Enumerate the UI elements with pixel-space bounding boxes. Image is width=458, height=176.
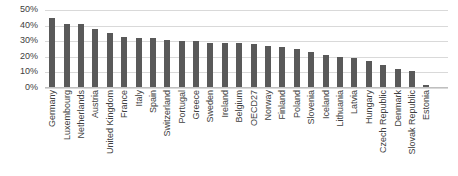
x-label-slot: United Kingdom (103, 90, 117, 176)
bar[interactable] (207, 43, 213, 88)
bar[interactable] (409, 71, 415, 88)
x-axis-tick-label: Finland (278, 90, 287, 120)
x-axis-tick-label: Lithuania (336, 90, 345, 127)
bar-slot (347, 10, 361, 88)
bar-slot (103, 10, 117, 88)
x-axis-tick-label: Iceland (321, 90, 330, 119)
bar[interactable] (380, 65, 386, 88)
x-label-slot: Spain (146, 90, 160, 176)
x-axis-tick-label: Greece (192, 90, 201, 120)
bar-slot (189, 10, 203, 88)
x-axis-tick-label: United Kingdom (105, 90, 114, 154)
x-axis-tick-label: Hungary (364, 90, 373, 124)
bar[interactable] (351, 58, 357, 88)
x-label-slot: Latvia (347, 90, 361, 176)
x-label-slot: Greece (189, 90, 203, 176)
bar[interactable] (64, 24, 70, 88)
x-label-slot: Slovenia (304, 90, 318, 176)
x-label-slot: Germany (45, 90, 59, 176)
y-axis-tick: 10% (0, 66, 38, 76)
bar-slot (117, 10, 131, 88)
x-label-slot: Sweden (203, 90, 217, 176)
x-axis-tick-label: Switzerland (163, 90, 172, 137)
bar[interactable] (251, 44, 257, 88)
bar-slot (88, 10, 102, 88)
x-label-slot: Czech Republic (376, 90, 390, 176)
bar[interactable] (136, 38, 142, 88)
bar[interactable] (366, 61, 372, 88)
bar[interactable] (164, 40, 170, 88)
bar-slot (131, 10, 145, 88)
x-axis-line (45, 87, 448, 88)
gridline (45, 88, 448, 89)
bar-slot (45, 10, 59, 88)
x-label-slot: Belgium (232, 90, 246, 176)
x-axis-tick-label: Belgium (235, 90, 244, 123)
x-axis-tick-label: Germany (48, 90, 57, 127)
x-label-slot: France (117, 90, 131, 176)
x-label-slot: Estonia (419, 90, 433, 176)
plot-area (45, 10, 448, 88)
bar[interactable] (107, 33, 113, 88)
bar[interactable] (279, 47, 285, 88)
bar-slot (304, 10, 318, 88)
bar[interactable] (179, 41, 185, 88)
y-axis-tick: 0% (0, 82, 38, 92)
bar[interactable] (92, 29, 98, 88)
bar-slot (175, 10, 189, 88)
x-label-slot: Portugal (175, 90, 189, 176)
x-label-slot: Luxembourg (59, 90, 73, 176)
x-axis-tick-label: Austria (91, 90, 100, 118)
bar-slot (74, 10, 88, 88)
bar[interactable] (222, 43, 228, 88)
x-label-slot: Denmark (390, 90, 404, 176)
x-axis-tick-label: Czech Republic (379, 90, 388, 153)
x-label-slot: Austria (88, 90, 102, 176)
x-axis-tick-label: Luxembourg (62, 90, 71, 140)
x-label-slot: Ireland (218, 90, 232, 176)
y-axis-tick: 30% (0, 35, 38, 45)
bar[interactable] (150, 38, 156, 88)
bar-slot (275, 10, 289, 88)
bar-slot (318, 10, 332, 88)
bar[interactable] (236, 43, 242, 88)
x-axis-tick-label: Slovenia (307, 90, 316, 125)
bar[interactable] (395, 69, 401, 88)
x-axis-tick-label: Spain (148, 90, 157, 113)
y-axis-tick: 20% (0, 51, 38, 61)
y-axis-tick: 50% (0, 4, 38, 14)
x-label-slot: Hungary (362, 90, 376, 176)
bar-slot (290, 10, 304, 88)
bar-series (45, 10, 448, 88)
x-axis-tick-label: OECD27 (249, 90, 258, 126)
x-label-slot: Poland (290, 90, 304, 176)
bar[interactable] (308, 52, 314, 88)
bar-slot (218, 10, 232, 88)
bar-slot (232, 10, 246, 88)
bar-slot (419, 10, 433, 88)
x-label-slot: Italy (131, 90, 145, 176)
bar-slot (146, 10, 160, 88)
bar[interactable] (193, 41, 199, 88)
bar[interactable] (265, 46, 271, 88)
bar[interactable] (294, 49, 300, 88)
bar-slot (203, 10, 217, 88)
bar[interactable] (49, 18, 55, 88)
x-label-slot: Norway (261, 90, 275, 176)
bar[interactable] (323, 55, 329, 88)
x-label-slot: Lithuania (333, 90, 347, 176)
x-axis-tick-label: Slovak Republic (407, 90, 416, 155)
x-axis-tick-label: Denmark (393, 90, 402, 127)
y-axis-tick: 40% (0, 20, 38, 30)
bar[interactable] (78, 24, 84, 88)
bar-slot (261, 10, 275, 88)
bar[interactable] (337, 57, 343, 88)
bar[interactable] (121, 37, 127, 88)
x-axis-tick-label: Portugal (177, 90, 186, 124)
x-axis-tick-label: Ireland (220, 90, 229, 118)
x-axis-tick-label: Italy (134, 90, 143, 107)
x-label-slot: OECD27 (246, 90, 260, 176)
bar-slot (160, 10, 174, 88)
bar-chart: 0%10%20%30%40%50% GermanyLuxembourgNethe… (0, 0, 458, 176)
bar-slot (59, 10, 73, 88)
